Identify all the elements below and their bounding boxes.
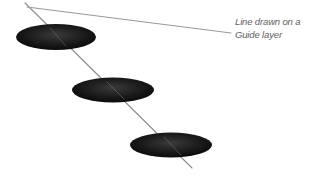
ellipse-middle (72, 78, 154, 103)
ellipse-top (16, 24, 96, 50)
annotation-line-1: Line drawn on a (235, 16, 315, 29)
annotation-line-2: Guide layer (235, 29, 315, 42)
figure-canvas: Line drawn on a Guide layer (0, 0, 315, 177)
guide-layer-annotation: Line drawn on a Guide layer (235, 16, 315, 41)
